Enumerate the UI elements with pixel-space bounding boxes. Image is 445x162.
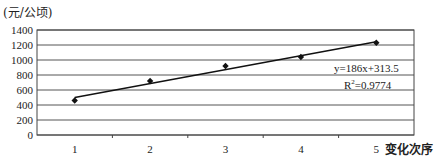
y-tick-label: 600 <box>17 84 34 96</box>
y-tick-label: 0 <box>28 129 34 141</box>
y-tick-label: 200 <box>17 114 34 126</box>
x-tick-label: 3 <box>223 143 229 155</box>
y-tick-label: 400 <box>17 99 34 111</box>
y-tick-label: 1200 <box>11 39 34 51</box>
x-tick-label: 5 <box>374 143 380 155</box>
trendline <box>75 42 377 98</box>
x-tick-label: 2 <box>147 143 153 155</box>
y-tick-label: 1400 <box>11 24 34 36</box>
r-squared-label: R2=0.9774 <box>344 78 391 91</box>
data-point-diamond-icon <box>222 63 228 69</box>
x-tick-label: 4 <box>298 143 304 155</box>
x-axis-label: 变化次序 <box>385 140 433 157</box>
data-point-diamond-icon <box>72 97 78 103</box>
r2-value: =0.9774 <box>355 79 391 91</box>
y-tick-label: 800 <box>17 69 34 81</box>
y-tick-label: 1000 <box>11 54 34 66</box>
trendline-equation: y=186x+313.5 <box>334 62 399 74</box>
x-tick-label: 1 <box>72 143 78 155</box>
